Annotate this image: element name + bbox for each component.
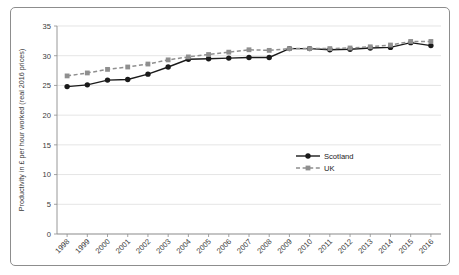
marker-uk-2016 [428, 39, 433, 44]
y-tick-label-25: 25 [43, 81, 51, 90]
x-tick-label-2011: 2011 [316, 237, 334, 255]
marker-uk-2008 [267, 48, 272, 53]
x-tick-group: 1998199920002001200220032004200520062007… [53, 234, 435, 255]
x-tick-label-2005: 2005 [195, 237, 213, 255]
y-tick-label-10: 10 [43, 170, 51, 179]
legend-label-uk: UK [324, 164, 335, 173]
series-group [64, 39, 433, 89]
marker-uk-2004 [186, 55, 191, 60]
marker-uk-2011 [327, 46, 332, 51]
x-tick-label-2000: 2000 [94, 237, 112, 255]
x-tick-label-2008: 2008 [255, 237, 273, 255]
marker-uk-2007 [247, 47, 252, 52]
chart-legend: ScotlandUK [296, 152, 354, 173]
y-tick-label-20: 20 [43, 111, 51, 120]
marker-uk-2009 [287, 46, 292, 51]
x-tick-label-2014: 2014 [377, 237, 395, 255]
marker-uk-2005 [206, 52, 211, 57]
marker-uk-2001 [125, 65, 130, 70]
x-tick-label-2012: 2012 [336, 237, 354, 255]
x-tick-label-2013: 2013 [356, 237, 374, 255]
x-tick-label-2006: 2006 [215, 237, 233, 255]
legend-marker-scotland [305, 153, 310, 158]
y-tick-label-5: 5 [47, 200, 51, 209]
x-tick-label-2007: 2007 [235, 237, 253, 255]
marker-scotland-2001 [125, 77, 130, 82]
marker-scotland-2006 [226, 55, 231, 60]
marker-scotland-1999 [85, 82, 90, 87]
marker-uk-2000 [105, 67, 110, 72]
marker-uk-1998 [65, 74, 70, 79]
marker-uk-2003 [166, 57, 171, 62]
marker-scotland-2003 [165, 64, 170, 69]
marker-scotland-2002 [145, 71, 150, 76]
marker-scotland-2008 [267, 55, 272, 60]
chart-figure: 05101520253035 1998199920002001200220032… [0, 0, 459, 275]
marker-uk-2013 [368, 44, 373, 49]
x-tick-label-2010: 2010 [296, 237, 314, 255]
y-axis-title-group: Productivity in £ per hour worked (real … [17, 49, 26, 212]
marker-uk-2006 [226, 50, 231, 55]
marker-scotland-2007 [246, 55, 251, 60]
x-tick-label-2004: 2004 [174, 237, 192, 255]
marker-uk-2012 [348, 46, 353, 51]
marker-uk-1999 [85, 71, 90, 76]
productivity-line-chart: 05101520253035 1998199920002001200220032… [11, 8, 449, 265]
x-tick-label-2003: 2003 [154, 237, 172, 255]
chart-frame: 05101520253035 1998199920002001200220032… [10, 7, 450, 266]
x-tick-label-2001: 2001 [114, 237, 132, 255]
y-axis-title: Productivity in £ per hour worked (real … [17, 49, 26, 212]
marker-uk-2002 [146, 62, 151, 67]
y-tick-label-30: 30 [43, 52, 51, 61]
marker-scotland-2000 [105, 77, 110, 82]
y-tick-label-35: 35 [43, 22, 51, 31]
marker-uk-2014 [388, 43, 393, 48]
legend-label-scotland: Scotland [324, 152, 354, 161]
marker-scotland-1998 [64, 84, 69, 89]
marker-uk-2010 [307, 46, 312, 51]
y-tick-label-15: 15 [43, 141, 51, 150]
x-tick-label-2002: 2002 [134, 237, 152, 255]
y-tick-label-0: 0 [47, 230, 51, 239]
x-tick-label-2009: 2009 [276, 237, 294, 255]
x-tick-label-1998: 1998 [53, 237, 71, 255]
legend-marker-uk [306, 166, 311, 171]
x-tick-label-1999: 1999 [73, 237, 91, 255]
x-tick-label-2015: 2015 [397, 237, 415, 255]
x-tick-label-2016: 2016 [417, 237, 435, 255]
marker-uk-2015 [408, 39, 413, 44]
y-tick-group: 05101520253035 [43, 22, 57, 239]
